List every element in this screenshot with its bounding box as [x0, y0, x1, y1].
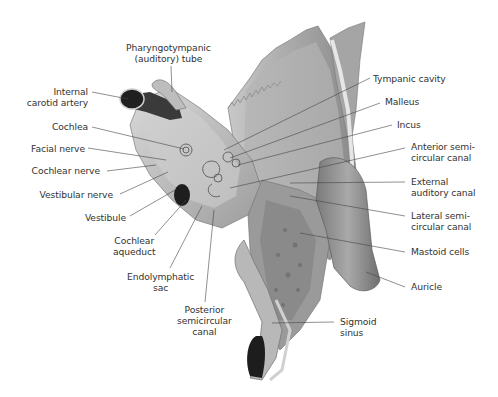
- label-internal-carotid-artery: Internal carotid artery: [27, 86, 88, 108]
- label-pharyngotympanic-tube: Pharyngotympanic (auditory) tube: [126, 42, 211, 64]
- label-tympanic-cavity: Tympanic cavity: [373, 73, 446, 84]
- label-incus: Incus: [397, 119, 421, 130]
- label-facial-nerve: Facial nerve: [31, 143, 85, 154]
- label-posterior-semicircular-canal: Posterior semicircular canal: [177, 304, 232, 337]
- label-sigmoid-sinus: Sigmoid sinus: [340, 316, 376, 338]
- label-malleus: Malleus: [385, 96, 419, 107]
- label-external-auditory-canal: External auditory canal: [411, 176, 475, 198]
- label-endolymphatic-sac: Endolymphatic sac: [127, 271, 194, 293]
- anatomy-figure: Pharyngotympanic (auditory) tube Interna…: [0, 0, 498, 397]
- label-lateral-semicircular-canal: Lateral semi- circular canal: [411, 210, 471, 232]
- auricle-shape: [316, 158, 380, 291]
- label-cochlear-aqueduct: Cochlear aqueduct: [113, 235, 155, 257]
- label-mastoid-cells: Mastoid cells: [411, 246, 469, 257]
- label-cochlear-nerve: Cochlear nerve: [32, 165, 100, 176]
- label-vestibule: Vestibule: [85, 212, 126, 223]
- label-auricle: Auricle: [411, 281, 442, 292]
- label-anterior-semicircular-canal: Anterior semi- circular canal: [411, 141, 475, 163]
- label-vestibular-nerve: Vestibular nerve: [40, 189, 113, 200]
- vestibule-shape: [174, 184, 190, 206]
- label-cochlea: Cochlea: [52, 121, 88, 132]
